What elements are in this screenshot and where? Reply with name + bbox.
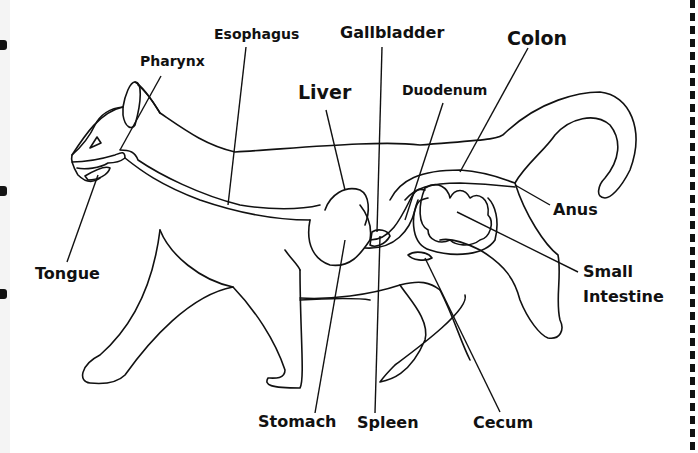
back-leg xyxy=(380,285,465,382)
cat-body-outline xyxy=(72,85,636,338)
label-duodenum: Duodenum xyxy=(402,82,487,98)
diagram-canvas: Esophagus Gallbladder Colon Pharynx Live… xyxy=(0,0,698,453)
label-small-intestine-line1: Small xyxy=(583,263,633,281)
leader-cecum xyxy=(425,258,500,412)
label-esophagus: Esophagus xyxy=(214,26,299,42)
esophagus-tube xyxy=(120,150,320,209)
leader-anus xyxy=(515,185,550,205)
leader-spleen xyxy=(375,236,380,413)
leader-duodenum xyxy=(405,103,443,220)
label-cecum: Cecum xyxy=(473,414,533,432)
stomach-shape xyxy=(309,205,371,265)
label-colon: Colon xyxy=(507,28,567,50)
eye xyxy=(90,137,101,148)
label-liver: Liver xyxy=(298,82,351,104)
label-stomach: Stomach xyxy=(258,413,337,431)
label-gallbladder: Gallbladder xyxy=(340,24,444,42)
front-leg-2 xyxy=(160,230,233,287)
label-tongue: Tongue xyxy=(35,265,100,283)
belly-line xyxy=(300,282,440,298)
ear-outline xyxy=(123,82,140,128)
leader-tongue xyxy=(67,175,98,262)
shoulder xyxy=(285,250,300,270)
esophagus-tube-lower xyxy=(125,158,310,220)
cecum-shape xyxy=(408,252,432,260)
leader-small-intestine xyxy=(457,212,578,272)
label-small-intestine-line2: Intestine xyxy=(583,288,664,306)
leader-liver xyxy=(326,110,345,190)
leader-stomach xyxy=(315,240,345,413)
small-intestine-coils xyxy=(420,185,491,245)
label-anus: Anus xyxy=(553,201,598,219)
front-leg-1 xyxy=(83,230,303,388)
leader-gallbladder xyxy=(377,47,382,232)
leader-colon xyxy=(460,48,528,172)
label-spleen: Spleen xyxy=(357,414,419,432)
label-pharynx: Pharynx xyxy=(140,53,205,69)
leader-esophagus xyxy=(228,47,246,205)
mouth-outline xyxy=(72,153,125,169)
cat-anatomy-drawing xyxy=(0,0,698,453)
